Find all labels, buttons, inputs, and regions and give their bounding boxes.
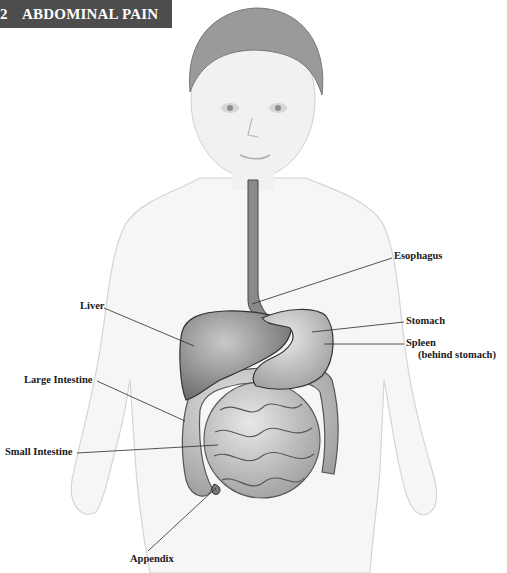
label-appendix: Appendix: [130, 553, 174, 564]
label-stomach: Stomach: [406, 315, 445, 326]
small-intestine-organ: [204, 382, 320, 498]
label-spleen: Spleen: [406, 337, 436, 348]
label-spleen-note: (behind stomach): [418, 349, 496, 360]
label-esophagus: Esophagus: [394, 250, 442, 261]
label-large-intestine: Large Intestine: [24, 374, 93, 385]
label-liver: Liver: [80, 300, 105, 311]
anatomy-illustration: [0, 0, 507, 573]
child-head: [189, 8, 322, 190]
label-small-intestine: Small Intestine: [5, 446, 72, 457]
